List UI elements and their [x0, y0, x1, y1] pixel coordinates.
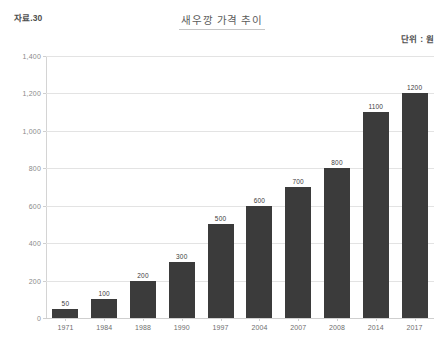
page-title: 새우깡 가격 추이: [0, 12, 444, 30]
bar[interactable]: [130, 281, 156, 318]
bar-value-label: 300: [176, 253, 187, 260]
x-axis-tick-label: 2004: [251, 324, 267, 331]
bar-group[interactable]: 12002017: [395, 56, 434, 318]
x-tickmark: [337, 318, 338, 321]
y-axis-tick-label: 1,000: [22, 127, 41, 134]
x-axis-tick-label: 2008: [329, 324, 345, 331]
bar[interactable]: [52, 309, 78, 318]
bar-value-label: 50: [62, 300, 70, 307]
x-axis-tick-label: 2017: [407, 324, 423, 331]
x-tickmark: [259, 318, 260, 321]
bar-group[interactable]: 1001984: [85, 56, 124, 318]
y-axis-tick-label: 200: [29, 277, 41, 284]
bar-group[interactable]: 6002004: [240, 56, 279, 318]
x-tickmark: [221, 318, 222, 321]
y-axis-tick-label: 800: [29, 165, 41, 172]
bar-group[interactable]: 5001997: [201, 56, 240, 318]
y-tickmark: [43, 318, 46, 319]
x-tickmark: [104, 318, 105, 321]
bar-group[interactable]: 2001988: [124, 56, 163, 318]
x-tickmark: [376, 318, 377, 321]
bar[interactable]: [208, 224, 234, 318]
bar-group[interactable]: 7002007: [279, 56, 318, 318]
x-axis-tick-label: 1984: [96, 324, 112, 331]
x-axis-tick-label: 1997: [213, 324, 229, 331]
unit-label: 단위 : 원: [401, 32, 434, 44]
x-axis-tick-label: 2014: [368, 324, 384, 331]
y-axis-tick-label: 600: [29, 202, 41, 209]
y-axis-tick-label: 1,200: [22, 90, 41, 97]
bar[interactable]: [363, 112, 389, 318]
x-tickmark: [143, 318, 144, 321]
bar[interactable]: [91, 299, 117, 318]
bar-value-label: 200: [137, 272, 148, 279]
bar-value-label: 500: [215, 215, 226, 222]
x-tickmark: [415, 318, 416, 321]
x-tickmark: [65, 318, 66, 321]
bar-group[interactable]: 3001990: [162, 56, 201, 318]
x-axis-tick-label: 2007: [290, 324, 306, 331]
bar-value-label: 1200: [407, 84, 422, 91]
bar-value-label: 700: [292, 178, 303, 185]
bar[interactable]: [246, 206, 272, 318]
bar-group[interactable]: 8002008: [318, 56, 357, 318]
chart-title-text: 새우깡 가격 추이: [179, 12, 264, 30]
x-axis-tick-label: 1971: [57, 324, 73, 331]
plot-area: 02004006008001,0001,2001,400 50197110019…: [46, 56, 434, 318]
bar[interactable]: [285, 187, 311, 318]
y-axis-tick-label: 0: [37, 315, 41, 322]
bar[interactable]: [324, 168, 350, 318]
bar-value-label: 800: [331, 159, 342, 166]
bar-value-label: 100: [98, 290, 109, 297]
bar-group[interactable]: 11002014: [356, 56, 395, 318]
x-tickmark: [182, 318, 183, 321]
chart-figure: 자료.30 새우깡 가격 추이 단위 : 원 02004006008001,00…: [0, 0, 444, 350]
bar-series: 5019711001984200198830019905001997600200…: [46, 56, 434, 318]
bar[interactable]: [169, 262, 195, 318]
x-axis-tick-label: 1990: [174, 324, 190, 331]
bar-group[interactable]: 501971: [46, 56, 85, 318]
y-axis-tick-label: 400: [29, 240, 41, 247]
x-tickmark: [298, 318, 299, 321]
bar[interactable]: [402, 93, 428, 318]
bar-value-label: 600: [254, 197, 265, 204]
y-axis-tick-label: 1,400: [22, 53, 41, 60]
x-axis-tick-label: 1988: [135, 324, 151, 331]
bar-value-label: 1100: [368, 103, 383, 110]
